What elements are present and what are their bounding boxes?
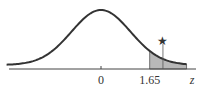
x-axis-label: z bbox=[189, 73, 195, 87]
star-marker: ★ bbox=[157, 34, 168, 48]
chart-svg: ★ 0 1.65 z bbox=[0, 0, 207, 92]
tick-label-1-65: 1.65 bbox=[139, 73, 160, 87]
normal-curve-chart: ★ 0 1.65 z bbox=[0, 0, 207, 92]
tick-label-0: 0 bbox=[98, 73, 104, 87]
